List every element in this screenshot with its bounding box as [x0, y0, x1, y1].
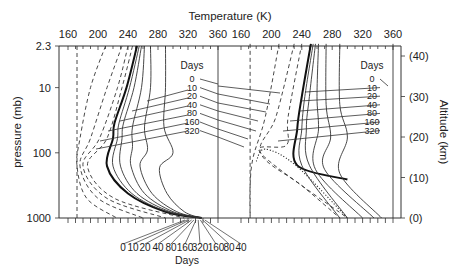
right-x-tick-label: 240 [293, 28, 311, 40]
right-x-tick-label: 200 [262, 28, 280, 40]
bottom-days-label: 320 [192, 242, 209, 253]
bottom-days-label: 80 [165, 242, 177, 253]
right-series-dashed-3 [260, 44, 340, 218]
bottom-days-label: 20 [139, 242, 151, 253]
right-y-tick-label: (10) [409, 172, 429, 184]
y-axis-title-pressure: pressure (mb) [11, 96, 23, 168]
right-series-20 [305, 44, 347, 218]
bottom-days-label: 40 [235, 242, 247, 253]
left-series-dashed-4 [83, 46, 166, 218]
right-y-tick-label: (20) [409, 131, 429, 143]
left-x-tick-label: 280 [149, 28, 167, 40]
left-x-tick-label: 240 [119, 28, 137, 40]
left-legend-title: Days [181, 60, 204, 71]
left-y-tick-label: 2.3 [36, 40, 51, 52]
bottom-days-label: 0 [120, 242, 126, 253]
left-y-tick-label: 10 [39, 82, 51, 94]
y-axis-title-altitude: Altitude (km) [438, 100, 450, 165]
left-y-tick-label: 1000 [27, 212, 51, 224]
left-x-tick-label: 360 [209, 28, 227, 40]
left-legend-entry: 320 [184, 126, 199, 136]
temperature-profile-figure: 160200240280320360160200240280320360Temp… [0, 0, 453, 271]
bottom-days-label: 10 [127, 242, 139, 253]
bottom-days-title: Days [175, 254, 199, 266]
right-y-tick-label: (0) [409, 212, 422, 224]
left-x-tick-label: 320 [179, 28, 197, 40]
right-legend-title: Days [361, 60, 384, 71]
right-y-tick-label: (30) [409, 91, 429, 103]
bottom-days-label: 40 [152, 242, 164, 253]
right-series-10 [299, 44, 340, 218]
right-x-tick-label: 160 [232, 28, 250, 40]
left-x-tick-label: 160 [59, 28, 77, 40]
bottom-days-label: 160 [208, 242, 225, 253]
right-series-40 [313, 44, 363, 218]
right-y-tick-label: (40) [409, 50, 429, 62]
left-y-tick-label: 100 [33, 147, 51, 159]
right-x-tick-label: 280 [323, 28, 341, 40]
bottom-days-label: 80 [223, 242, 235, 253]
left-series-dashed-2 [77, 46, 117, 218]
left-x-tick-label: 200 [89, 28, 107, 40]
x-axis-title: Temperature (K) [188, 10, 271, 22]
right-x-tick-label: 320 [353, 28, 371, 40]
right-x-tick-label: 360 [384, 28, 402, 40]
right-series-dashed-2 [250, 44, 279, 218]
